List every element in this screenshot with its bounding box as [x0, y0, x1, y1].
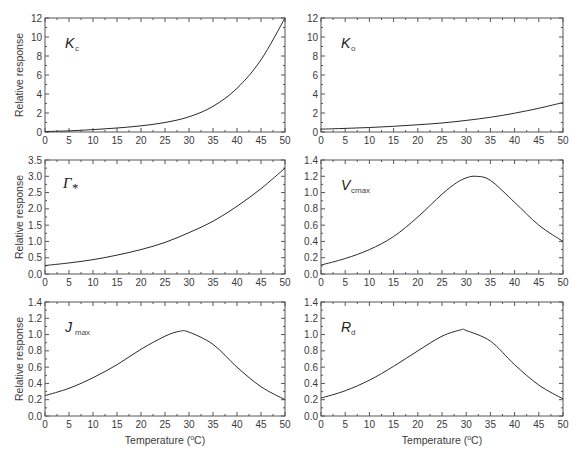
y-tick-label: 1.4: [304, 297, 318, 308]
x-tick-label: 10: [364, 277, 376, 288]
x-tick-label: 10: [87, 135, 99, 146]
y-tick-label: 0.8: [28, 345, 42, 356]
x-tick-label: 35: [485, 419, 497, 430]
y-tick-label: 0.0: [28, 411, 42, 422]
x-tick-label: 30: [183, 419, 195, 430]
y-axis-title: Relative response: [13, 317, 25, 401]
y-tick-label: 1.0: [28, 236, 42, 247]
y-tick-label: 0.2: [304, 252, 318, 263]
plot-frame: [45, 302, 285, 416]
x-tick-label: 0: [318, 419, 324, 430]
x-tick-label: 50: [279, 135, 291, 146]
x-tick-label: 30: [461, 135, 473, 146]
x-tick-label: 5: [66, 135, 72, 146]
x-tick-label: 25: [436, 419, 448, 430]
x-tick-label: 50: [279, 419, 291, 430]
x-tick-label: 20: [135, 419, 147, 430]
data-line: [321, 103, 563, 130]
x-tick-label: 50: [279, 277, 291, 288]
y-tick-label: 1.4: [304, 155, 318, 166]
panel-jmax: 051015202530354045500.00.20.40.60.81.01.…: [13, 297, 291, 447]
x-tick-label: 10: [364, 135, 376, 146]
x-tick-label: 20: [135, 277, 147, 288]
y-tick-label: 0: [36, 127, 42, 138]
y-tick-label: 1.2: [304, 171, 318, 182]
x-tick-label: 15: [111, 419, 123, 430]
panel-label: K: [341, 35, 351, 51]
panel-label: R: [341, 319, 351, 335]
x-tick-label: 30: [461, 277, 473, 288]
x-axis-title: Temperature (oC): [402, 434, 482, 446]
y-tick-label: 8: [312, 51, 318, 62]
y-tick-label: 0: [312, 127, 318, 138]
y-tick-label: 1.0: [304, 187, 318, 198]
data-line: [45, 18, 285, 132]
y-axis-title: Relative response: [13, 33, 25, 117]
data-line: [321, 329, 563, 399]
data-line: [45, 168, 285, 265]
y-tick-label: 1.4: [28, 297, 42, 308]
x-tick-label: 40: [231, 277, 243, 288]
y-tick-label: 0.0: [304, 269, 318, 280]
x-tick-label: 50: [557, 135, 569, 146]
x-tick-label: 5: [342, 277, 348, 288]
x-tick-label: 30: [461, 419, 473, 430]
x-tick-label: 45: [255, 277, 267, 288]
x-tick-label: 40: [231, 419, 243, 430]
panel-kc: 05101520253035404550024681012KcRelative …: [13, 13, 291, 147]
x-tick-label: 10: [87, 419, 99, 430]
y-tick-label: 4: [36, 89, 42, 100]
x-tick-label: 30: [183, 277, 195, 288]
y-tick-label: 6: [36, 70, 42, 81]
x-axis-title: Temperature (oC): [125, 434, 205, 446]
panel-label: J: [64, 319, 73, 335]
x-tick-label: 50: [557, 277, 569, 288]
x-tick-label: 15: [111, 135, 123, 146]
y-tick-label: 0.0: [304, 411, 318, 422]
y-tick-label: 12: [307, 13, 319, 24]
y-tick-label: 1.2: [304, 313, 318, 324]
x-tick-label: 15: [388, 419, 400, 430]
y-tick-label: 2: [312, 108, 318, 119]
figure-canvas: 05101520253035404550024681012KcRelative …: [0, 0, 580, 458]
panel-gamma-star: 051015202530354045500.00.51.01.52.02.53.…: [13, 155, 291, 289]
x-tick-label: 45: [533, 135, 545, 146]
y-tick-label: 3.5: [28, 155, 42, 166]
y-tick-label: 6: [312, 70, 318, 81]
x-tick-label: 10: [364, 419, 376, 430]
x-tick-label: 35: [485, 277, 497, 288]
x-tick-label: 0: [42, 419, 48, 430]
x-tick-label: 20: [412, 419, 424, 430]
y-tick-label: 1.2: [28, 313, 42, 324]
x-tick-label: 35: [485, 135, 497, 146]
y-tick-label: 4: [312, 89, 318, 100]
panel-label-sub: o: [351, 44, 356, 53]
x-tick-label: 30: [183, 135, 195, 146]
x-tick-label: 10: [87, 277, 99, 288]
y-tick-label: 0.4: [304, 236, 318, 247]
y-tick-label: 8: [36, 51, 42, 62]
x-tick-label: 35: [207, 135, 219, 146]
x-tick-label: 40: [509, 419, 521, 430]
x-tick-label: 20: [135, 135, 147, 146]
y-tick-label: 0.4: [28, 378, 42, 389]
y-tick-label: 0.4: [304, 378, 318, 389]
panel-ko: 05101520253035404550024681012Ko: [307, 13, 569, 147]
data-line: [45, 331, 285, 400]
plot-frame: [321, 160, 563, 274]
x-tick-label: 0: [42, 135, 48, 146]
x-tick-label: 15: [388, 135, 400, 146]
x-tick-label: 0: [42, 277, 48, 288]
x-tick-label: 5: [342, 419, 348, 430]
panel-label-sub: d: [351, 328, 355, 337]
x-tick-label: 20: [412, 135, 424, 146]
x-tick-label: 40: [231, 135, 243, 146]
panel-label-sub: *: [72, 180, 79, 195]
x-tick-label: 0: [318, 277, 324, 288]
plot-frame: [45, 160, 285, 274]
panel-rd: 051015202530354045500.00.20.40.60.81.01.…: [304, 297, 569, 447]
x-tick-label: 25: [436, 135, 448, 146]
y-tick-label: 0.6: [304, 220, 318, 231]
y-tick-label: 0.8: [304, 345, 318, 356]
panel-vcmax: 051015202530354045500.00.20.40.60.81.01.…: [304, 155, 569, 289]
